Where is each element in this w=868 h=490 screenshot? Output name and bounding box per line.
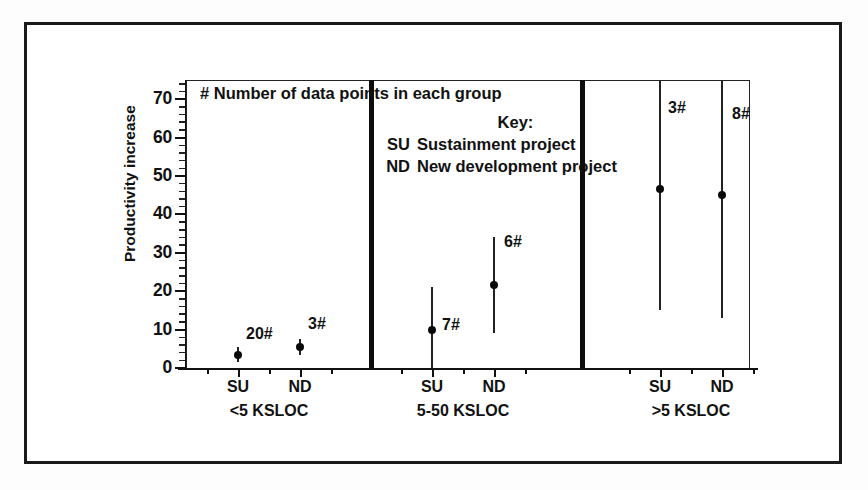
key-desc-su: Sustainment project [417, 134, 576, 156]
group-label: <5 KSLOC [169, 402, 369, 420]
key-desc-nd: New development project [417, 156, 617, 178]
y-tick-minor [179, 352, 185, 354]
x-tick-minor [331, 368, 333, 374]
y-tick-minor [179, 229, 185, 231]
x-tick [432, 368, 434, 377]
y-tick-minor [179, 145, 185, 147]
y-tick-minor [179, 206, 185, 208]
key-title: Key: [378, 112, 617, 134]
y-tick-minor [179, 313, 185, 315]
x-tick-minor [525, 368, 527, 374]
y-tick-major [175, 137, 185, 139]
y-tick-label: 0 [138, 357, 172, 378]
data-points-note: # Number of data points in each group [200, 84, 502, 103]
y-tick-minor [179, 168, 185, 170]
y-tick-minor [179, 129, 185, 131]
y-tick-minor [179, 344, 185, 346]
x-tick-minor [401, 368, 403, 374]
x-tick-minor [463, 368, 465, 374]
data-point-count-label: 3# [308, 315, 326, 333]
y-tick-minor [179, 360, 185, 362]
x-axis-line [178, 368, 758, 370]
y-tick-minor [179, 160, 185, 162]
x-tick-label-nd: ND [464, 378, 524, 396]
y-tick-minor [179, 283, 185, 285]
error-bar [659, 80, 661, 310]
productivity-increase-figure: Productivity increase 010203040506070 SU… [0, 0, 868, 490]
chart-key: Key: SU Sustainment project ND New devel… [378, 112, 617, 178]
y-tick-label: 50 [138, 165, 172, 186]
group-separator [369, 80, 374, 368]
data-point-count-label: 8# [732, 105, 750, 123]
data-point-count-label: 3# [668, 99, 686, 117]
y-tick-minor [179, 298, 185, 300]
y-tick-minor [179, 221, 185, 223]
y-tick-label: 30 [138, 242, 172, 263]
y-tick-minor [179, 114, 185, 116]
y-tick-major [175, 252, 185, 254]
x-tick-minor [269, 368, 271, 374]
y-tick-label: 20 [138, 280, 172, 301]
x-tick-minor [691, 368, 693, 374]
y-tick-minor [179, 83, 185, 85]
y-tick-minor [179, 275, 185, 277]
y-tick-major [175, 367, 185, 369]
data-point-marker [428, 326, 436, 334]
x-tick-minor [753, 368, 755, 374]
y-axis-tick-labels: 010203040506070 [132, 0, 172, 490]
x-tick-minor [629, 368, 631, 374]
x-tick-label-su: SU [630, 378, 690, 396]
x-tick [660, 368, 662, 377]
x-tick [300, 368, 302, 377]
error-bar [721, 80, 723, 318]
y-tick-major [175, 98, 185, 100]
data-point-count-label: 20# [246, 325, 273, 343]
x-tick-minor [207, 368, 209, 374]
y-tick-minor [179, 152, 185, 154]
y-tick-minor [179, 191, 185, 193]
y-tick-label: 10 [138, 319, 172, 340]
data-point-marker [296, 343, 304, 351]
y-tick-minor [179, 337, 185, 339]
group-label: 5-50 KSLOC [363, 402, 563, 420]
key-abbr-su: SU [378, 134, 410, 156]
x-tick-label-nd: ND [270, 378, 330, 396]
x-tick [238, 368, 240, 377]
y-tick-minor [179, 91, 185, 93]
y-tick-label: 70 [138, 88, 172, 109]
key-abbr-nd: ND [378, 156, 410, 178]
x-tick-label-su: SU [402, 378, 462, 396]
y-tick-label: 40 [138, 203, 172, 224]
y-tick-major [175, 175, 185, 177]
y-tick-major [175, 290, 185, 292]
y-tick-major [175, 213, 185, 215]
data-point-count-label: 7# [442, 316, 460, 334]
y-tick-minor [179, 244, 185, 246]
y-tick-minor [179, 121, 185, 123]
key-row-nd: ND New development project [378, 156, 617, 178]
y-tick-minor [179, 306, 185, 308]
y-tick-minor [179, 267, 185, 269]
y-tick-minor [179, 321, 185, 323]
x-tick [722, 368, 724, 377]
y-tick-minor [179, 183, 185, 185]
y-tick-minor [179, 260, 185, 262]
group-label: >5 KSLOC [591, 402, 791, 420]
key-row-su: SU Sustainment project [378, 134, 617, 156]
x-tick-label-nd: ND [692, 378, 752, 396]
x-tick-label-su: SU [208, 378, 268, 396]
y-tick-major [175, 329, 185, 331]
y-tick-minor [179, 198, 185, 200]
x-tick [494, 368, 496, 377]
y-tick-label: 60 [138, 127, 172, 148]
y-tick-minor [179, 237, 185, 239]
y-tick-minor [179, 106, 185, 108]
data-point-count-label: 6# [504, 233, 522, 251]
data-point-marker [234, 351, 242, 359]
